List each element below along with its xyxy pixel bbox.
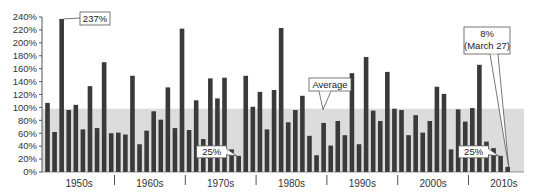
bar-1980s — [314, 155, 319, 172]
y-tick-label: 80% — [18, 115, 38, 126]
y-tick-label: 20% — [18, 153, 38, 164]
bar-2010s — [498, 156, 503, 172]
bar-1950s — [52, 132, 57, 172]
bar-2000s — [399, 110, 404, 172]
bar-1950s — [81, 129, 86, 172]
y-tick-label: 240% — [13, 11, 38, 22]
bar-1950s — [95, 128, 100, 172]
decade-label: 1990s — [349, 178, 376, 189]
bar-1970s — [243, 76, 248, 172]
bar-1990s — [364, 57, 369, 172]
bar-2000s — [442, 94, 447, 172]
bar-1990s — [335, 121, 340, 172]
bar-2010s — [470, 108, 475, 172]
march-27-callout: 8%(March 27) — [464, 27, 510, 54]
bar-1980s — [265, 129, 270, 172]
bar-1960s — [180, 29, 185, 172]
bar-1990s — [343, 135, 348, 172]
low-25-callout: 25% — [197, 146, 227, 158]
bar-1960s — [123, 135, 128, 172]
y-tick-label: 140% — [13, 76, 38, 87]
bar-2000s — [449, 149, 454, 172]
bar-1990s — [378, 121, 383, 172]
bar-1960s — [137, 144, 142, 172]
snowpack-bar-chart: 0%20%40%60%80%100%120%140%160%180%200%22… — [0, 0, 534, 196]
decade-label: 1980s — [278, 178, 305, 189]
bar-2000s — [406, 135, 411, 172]
bar-1990s — [328, 146, 333, 172]
svg-text:25%: 25% — [464, 146, 484, 157]
bar-1980s — [272, 90, 277, 172]
bar-1990s — [371, 111, 376, 172]
peak-237-callout: 237% — [80, 12, 110, 25]
bar-1950s — [66, 110, 71, 172]
svg-text:8%: 8% — [480, 28, 494, 39]
bar-1960s — [166, 87, 171, 172]
svg-text:25%: 25% — [202, 146, 222, 157]
y-tick-label: 60% — [18, 128, 38, 139]
bar-1950s — [109, 133, 114, 172]
bar-1990s — [385, 72, 390, 172]
bar-1960s — [158, 120, 163, 172]
bar-1960s — [144, 131, 149, 172]
y-tick-label: 100% — [13, 102, 38, 113]
y-tick-label: 200% — [13, 37, 38, 48]
y-tick-label: 180% — [13, 50, 38, 61]
x-axis: 1950s1960s1970s1980s1990s2000s2010s — [42, 172, 524, 189]
bar-1970s — [215, 98, 220, 172]
bar-1950s — [74, 105, 79, 172]
decade-label: 1960s — [136, 178, 163, 189]
y-tick-label: 120% — [13, 89, 38, 100]
bar-1980s — [293, 110, 298, 172]
bar-1980s — [321, 123, 326, 172]
bar-1970s — [187, 130, 192, 172]
bar-1990s — [392, 109, 397, 172]
decade-label: 1950s — [65, 178, 92, 189]
bar-1960s — [151, 111, 156, 172]
y-tick-label: 220% — [13, 24, 38, 35]
y-tick-label: 40% — [18, 140, 38, 151]
bar-1980s — [258, 92, 263, 172]
bar-1960s — [130, 76, 135, 172]
bar-1970s — [194, 100, 199, 172]
bar-1990s — [357, 144, 362, 172]
svg-text:Average: Average — [312, 79, 347, 90]
bar-2000s — [420, 133, 425, 172]
bar-1950s — [88, 86, 93, 172]
decade-label: 1970s — [207, 178, 234, 189]
bar-1960s — [116, 133, 121, 172]
y-axis: 0%20%40%60%80%100%120%140%160%180%200%22… — [13, 11, 42, 177]
bar-1970s — [251, 107, 256, 172]
bar-1950s — [102, 62, 107, 172]
decade-label: 2010s — [490, 178, 517, 189]
bar-1950s — [45, 103, 50, 172]
bar-1980s — [307, 136, 312, 172]
bar-1970s — [236, 156, 241, 172]
average-callout: Average — [309, 78, 351, 91]
low-25-callout: 25% — [459, 146, 489, 158]
y-tick-label: 0% — [23, 166, 37, 177]
bar-1980s — [279, 28, 284, 172]
bar-2000s — [456, 109, 461, 172]
bar-1980s — [300, 96, 305, 172]
bar-2000s — [435, 87, 440, 172]
bar-1950s — [59, 19, 64, 172]
y-tick-label: 160% — [13, 63, 38, 74]
bar-2010s — [505, 167, 510, 172]
svg-text:(March 27): (March 27) — [464, 40, 510, 51]
svg-text:237%: 237% — [83, 13, 108, 24]
decade-label: 2000s — [419, 178, 446, 189]
bar-2000s — [428, 121, 433, 172]
bar-2000s — [413, 115, 418, 172]
bar-1960s — [173, 128, 178, 172]
bar-1980s — [286, 122, 291, 172]
